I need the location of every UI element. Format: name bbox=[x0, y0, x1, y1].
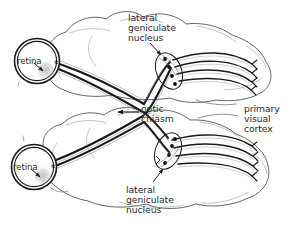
cortex-line3: cortex bbox=[244, 123, 273, 134]
lgn-top-line3: nucleus bbox=[128, 32, 163, 43]
label-retina-top: retina bbox=[17, 57, 42, 66]
label-optic-chiasm: optic chiasm bbox=[141, 104, 174, 124]
interhemispheric-notch bbox=[196, 100, 238, 118]
label-lateral-geniculate-nucleus-top: lateral geniculate nucleus bbox=[128, 13, 176, 44]
label-primary-visual-cortex: primary visual cortex bbox=[244, 104, 280, 135]
figure-canvas: lateral geniculate nucleus lateral genic… bbox=[0, 0, 295, 229]
lgn-bottom-line3: nucleus bbox=[126, 204, 161, 215]
label-retina-bottom: retina bbox=[13, 163, 38, 172]
label-lateral-geniculate-nucleus-bottom: lateral geniculate nucleus bbox=[126, 185, 174, 216]
chiasm-line2: chiasm bbox=[141, 113, 174, 124]
